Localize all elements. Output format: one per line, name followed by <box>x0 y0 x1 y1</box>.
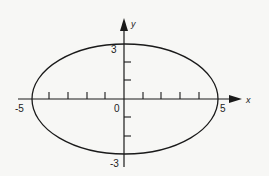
y-axis-label: y <box>130 19 136 29</box>
x-max-label: 5 <box>220 103 226 114</box>
x-axis-label: x <box>245 95 251 105</box>
x-axis-arrow-icon <box>229 95 242 103</box>
origin-label: 0 <box>114 103 120 114</box>
y-min-label: -3 <box>110 158 119 169</box>
ellipse-plot: y x 3 -3 -5 5 0 <box>0 0 269 176</box>
y-axis-arrow-icon <box>120 18 128 31</box>
y-max-label: 3 <box>111 44 117 55</box>
ellipse-diagram: y x 3 -3 -5 5 0 <box>0 0 269 176</box>
x-min-label: -5 <box>15 103 24 114</box>
